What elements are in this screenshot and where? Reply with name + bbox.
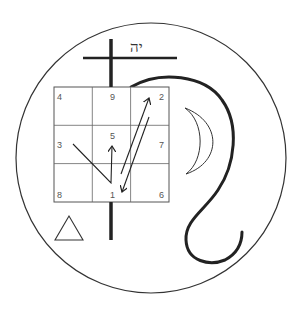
hebrew-label: יה <box>130 38 143 56</box>
magic-square-frame <box>54 87 169 202</box>
triangle-icon <box>55 216 83 240</box>
square-cell-r0c1: 9 <box>110 92 115 102</box>
square-cell-r0c0: 4 <box>57 92 62 102</box>
crescent-moon-icon <box>185 108 213 174</box>
square-cell-r2c2: 6 <box>159 190 164 200</box>
square-cell-r0c2: 2 <box>159 92 164 102</box>
square-cell-r1c0: 3 <box>57 140 62 150</box>
square-cell-r1c1: 5 <box>110 131 115 141</box>
sigil-diagram: יה 4 9 2 3 5 7 8 1 6 <box>0 0 302 313</box>
square-cell-r1c2: 7 <box>159 140 164 150</box>
square-cell-r2c0: 8 <box>57 190 62 200</box>
square-cell-r2c1: 1 <box>110 190 115 200</box>
